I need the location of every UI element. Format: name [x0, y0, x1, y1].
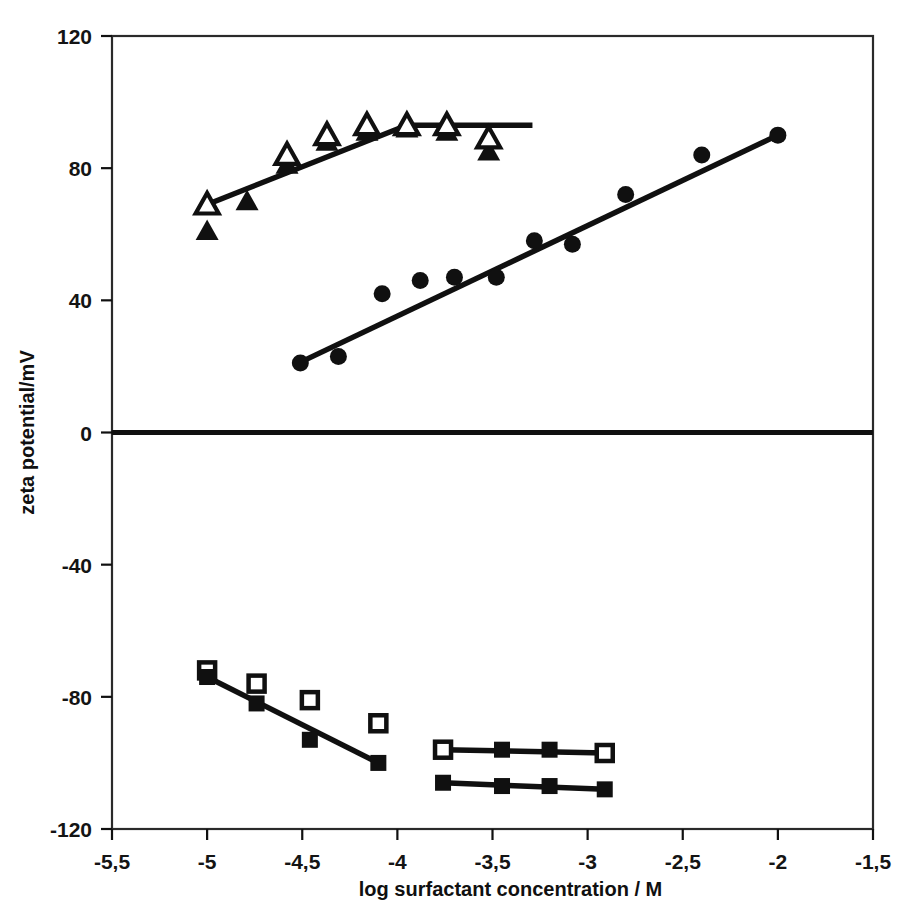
point-filled-circle-7 — [564, 236, 581, 253]
x-tick-label-8: -1,5 — [855, 850, 892, 873]
point-filled-square-descending-0 — [199, 669, 215, 685]
x-axis-title: log surfactant concentration / M — [359, 878, 662, 900]
y-tick-label-6: -120 — [50, 818, 92, 841]
y-tick-label-2: 40 — [69, 289, 92, 312]
point-filled-square-plateau-lower-2 — [542, 778, 558, 794]
x-tick-label-0: -5,5 — [94, 850, 131, 873]
point-filled-square-plateau-lower-1 — [494, 778, 510, 794]
point-filled-square-plateau-upper-1 — [542, 742, 558, 758]
x-tick-label-5: -3 — [578, 850, 597, 873]
point-filled-circle-5 — [488, 269, 505, 286]
y-tick-label-5: -80 — [62, 686, 92, 709]
point-filled-circle-9 — [693, 146, 710, 163]
x-tick-label-1: -5 — [198, 850, 217, 873]
square-plateau-upper-line — [443, 750, 605, 753]
point-filled-square-plateau-upper-0 — [494, 742, 510, 758]
point-open-square-descending-3 — [370, 715, 386, 731]
point-filled-circle-10 — [769, 127, 786, 144]
point-filled-square-plateau-lower-3 — [597, 781, 613, 797]
point-filled-square-descending-1 — [249, 695, 265, 711]
point-filled-square-descending-3 — [370, 755, 386, 771]
point-filled-circle-2 — [374, 285, 391, 302]
point-filled-circle-3 — [412, 272, 429, 289]
x-tick-label-7: -2 — [769, 850, 788, 873]
point-open-square-descending-1 — [249, 676, 265, 692]
y-tick-label-3: 0 — [80, 422, 92, 445]
x-tick-label-2: -4,5 — [284, 850, 321, 873]
point-open-square-plateau-0 — [435, 742, 451, 758]
point-filled-circle-1 — [330, 348, 347, 365]
point-filled-square-plateau-lower-0 — [435, 775, 451, 791]
point-filled-circle-8 — [617, 186, 634, 203]
x-tick-label-6: -2,5 — [665, 850, 702, 873]
chart-figure: 12080400-40-80-120-5,5-5-4,5-4-3,5-3-2,5… — [0, 0, 916, 923]
y-tick-label-0: 120 — [57, 25, 92, 48]
point-filled-circle-0 — [292, 355, 309, 372]
x-tick-label-4: -3,5 — [474, 850, 511, 873]
point-open-square-plateau-1 — [597, 745, 613, 761]
y-tick-label-1: 80 — [69, 157, 92, 180]
y-tick-label-4: -40 — [62, 554, 92, 577]
point-filled-circle-6 — [526, 232, 543, 249]
point-filled-circle-4 — [446, 269, 463, 286]
x-tick-label-3: -4 — [388, 850, 407, 873]
chart-canvas: 12080400-40-80-120-5,5-5-4,5-4-3,5-3-2,5… — [0, 0, 916, 923]
point-open-square-descending-2 — [302, 692, 318, 708]
y-axis-title: zeta potential/mV — [16, 350, 38, 515]
point-filled-square-descending-2 — [302, 732, 318, 748]
